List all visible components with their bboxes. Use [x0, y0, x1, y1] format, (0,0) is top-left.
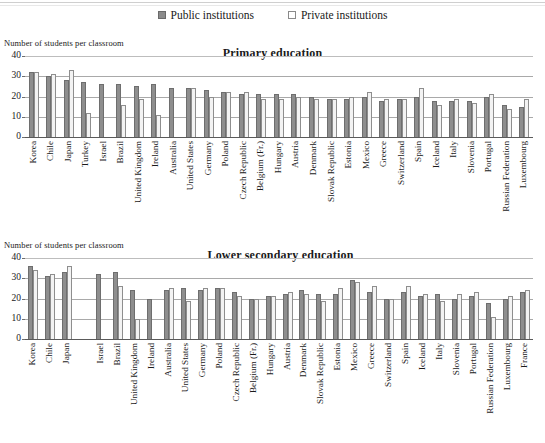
bar-private — [355, 282, 360, 339]
category-label: United States — [177, 341, 194, 437]
bar-group — [279, 258, 296, 339]
bar-group — [428, 56, 446, 137]
category-label: Brazil — [110, 341, 127, 437]
category-label: Korea — [25, 341, 42, 437]
bar-private — [139, 99, 144, 137]
category-label: Chile — [42, 341, 59, 437]
bar-private — [118, 286, 123, 339]
category-label-text: Czech Republic — [232, 343, 241, 401]
bar-private — [296, 97, 301, 138]
bar-private — [454, 99, 459, 137]
category-label-text: Denmark — [300, 343, 309, 377]
bar-group — [43, 56, 61, 137]
category-label-text: Estonia — [334, 343, 343, 371]
bar-group — [25, 56, 43, 137]
bar-private — [423, 294, 428, 339]
category-label-text: Austria — [283, 343, 292, 370]
category-label-text: Iceland — [432, 141, 441, 168]
category-label: Slovenia — [463, 139, 481, 235]
bar-private — [474, 292, 479, 339]
bar-group — [358, 56, 376, 137]
bar-group — [200, 56, 218, 137]
category-label: Australia — [161, 341, 178, 437]
category-label: Spain — [398, 341, 415, 437]
category-label-text: Portugal — [469, 343, 478, 374]
bar-private — [186, 301, 191, 339]
category-label: Denmark — [305, 139, 323, 235]
category-label: Brazil — [113, 139, 131, 235]
category-label: Greece — [364, 341, 381, 437]
bar-public — [147, 299, 152, 340]
category-label: Belgium (Fr.) — [245, 341, 262, 437]
category-label: Austria — [288, 139, 306, 235]
bar-private — [69, 70, 74, 137]
page-top-rule — [0, 2, 545, 3]
category-label: France — [516, 341, 533, 437]
category-label-text: Chile — [46, 343, 55, 363]
category-label: Russian Federation — [482, 341, 499, 437]
category-label-text: Czech Republic — [239, 141, 248, 199]
bar-group — [393, 56, 411, 137]
category-label: Portugal — [480, 139, 498, 235]
category-label-text: Slovak Republic — [327, 141, 336, 202]
category-label: Austria — [279, 341, 296, 437]
bar-private — [419, 88, 424, 137]
legend-item-public: Public institutions — [158, 9, 254, 21]
bar-group — [305, 56, 323, 137]
category-label: Spain — [410, 139, 428, 235]
category-label: Luxembourg — [515, 139, 533, 235]
y-axis-tick-10: 10 — [12, 112, 22, 122]
category-label: Denmark — [296, 341, 313, 437]
bar-group — [245, 258, 262, 339]
category-label: Germany — [200, 139, 218, 235]
category-label-text: Mexico — [362, 141, 371, 169]
category-label-text: France — [520, 343, 529, 368]
category-label: Poland — [218, 139, 236, 235]
bar-group — [95, 56, 113, 137]
bar-private — [314, 99, 319, 137]
category-label-text: Italy — [450, 141, 459, 158]
bar-private — [67, 266, 72, 339]
bar-private — [279, 99, 284, 137]
legend-item-private: Private institutions — [288, 9, 388, 21]
bar-private — [121, 105, 126, 137]
category-label: Japan — [59, 341, 76, 437]
bar-public — [99, 84, 104, 137]
bar-private — [489, 94, 494, 137]
bar-group — [93, 258, 110, 339]
bar-group — [127, 258, 144, 339]
category-label-text: Slovenia — [452, 343, 461, 375]
category-label: United Kingdom — [130, 139, 148, 235]
bar-private — [220, 288, 225, 339]
bar-group — [211, 258, 228, 339]
category-label: Chile — [43, 139, 61, 235]
category-label: Mexico — [358, 139, 376, 235]
category-label-text: Chile — [47, 141, 56, 161]
bar-private — [261, 99, 266, 137]
bar-group — [410, 56, 428, 137]
chart-legend: Public institutions Private institutions — [0, 9, 545, 21]
bar-group — [288, 56, 306, 137]
bar-group — [78, 56, 96, 137]
bar-group — [194, 258, 211, 339]
bar-private — [203, 288, 208, 339]
page-top-rule-secondary — [0, 5, 545, 6]
bar-private — [321, 301, 326, 339]
category-label-text: Switzerland — [397, 141, 406, 185]
bar-private — [33, 270, 38, 339]
category-labels: KoreaChileJapanIsraelBrazilUnited Kingdo… — [25, 341, 533, 437]
category-label-text: Korea — [29, 141, 38, 163]
category-label-text: Germany — [204, 141, 213, 175]
category-label-text: Brazil — [114, 343, 123, 365]
bar-group — [381, 258, 398, 339]
category-label-text: Brazil — [117, 141, 126, 163]
y-axis-tick-20: 20 — [12, 92, 22, 102]
y-tickmark-20 — [22, 97, 25, 98]
bar-private — [304, 294, 309, 339]
category-label-text: Poland — [222, 141, 231, 167]
category-label-text: Greece — [368, 343, 377, 369]
y-tickmark-40 — [22, 258, 25, 259]
bar-group — [340, 56, 358, 137]
category-label: Belgium (Fr.) — [253, 139, 271, 235]
category-label: Portugal — [465, 341, 482, 437]
